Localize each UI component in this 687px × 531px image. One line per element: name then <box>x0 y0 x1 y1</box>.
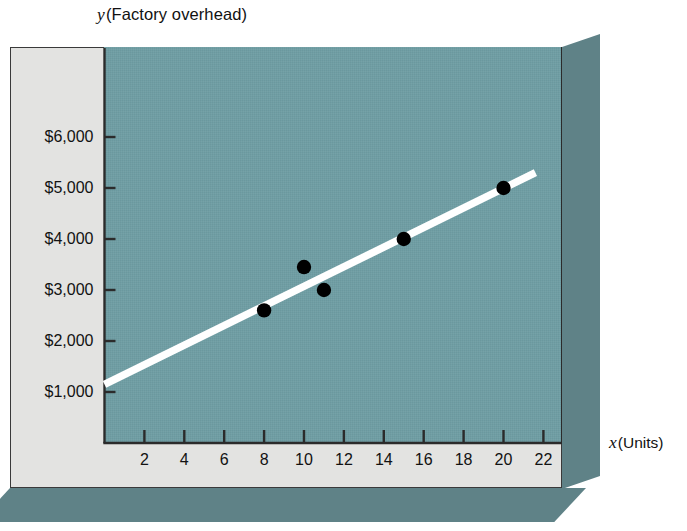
y-axis-tick-label: $2,000 <box>45 332 94 350</box>
x-axis-tick-label: 18 <box>455 451 473 469</box>
axes-group <box>103 48 561 443</box>
data-point <box>297 260 311 274</box>
data-point <box>317 283 331 297</box>
x-axis-tick-label: 4 <box>180 451 189 469</box>
x-axis-tick-label: 6 <box>220 451 229 469</box>
scatter-diagram-figure: y(Factory overhead) x(Units) $1,000$2,00… <box>0 0 687 531</box>
x-axis-tick-label: 22 <box>534 451 552 469</box>
y-axis-tick-label: $4,000 <box>45 230 94 248</box>
y-axis-tick-label: $3,000 <box>45 281 94 299</box>
regression-line-group <box>105 173 536 385</box>
regression-line <box>105 173 536 385</box>
data-point <box>257 303 271 317</box>
x-axis-tick-label: 14 <box>375 451 393 469</box>
x-axis-tick-label: 2 <box>140 451 149 469</box>
data-point <box>496 181 510 195</box>
x-axis-tick-label: 10 <box>295 451 313 469</box>
data-point <box>397 232 411 246</box>
y-axis-tick-label: $6,000 <box>45 128 94 146</box>
x-axis-tick-label: 20 <box>495 451 513 469</box>
y-axis-tick-label: $5,000 <box>45 179 94 197</box>
y-axis-tick-label: $1,000 <box>45 383 94 401</box>
x-axis-tick-label: 8 <box>260 451 269 469</box>
x-axis-tick-label: 12 <box>335 451 353 469</box>
x-axis-tick-label: 16 <box>415 451 433 469</box>
